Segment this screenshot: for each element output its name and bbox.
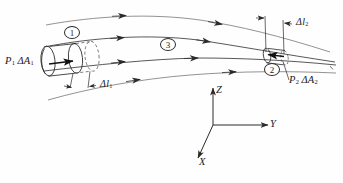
- dl2-sub: 2: [305, 20, 308, 27]
- inlet-force-a-sub: 1: [31, 59, 34, 66]
- streamline-arrow: [196, 40, 210, 42]
- outlet-force-a-sub: 2: [315, 78, 318, 85]
- inlet-force-p: P: [5, 55, 12, 66]
- streamline-arrow: [184, 58, 198, 59]
- axis-x-line: [198, 125, 213, 158]
- dl2-witness-left: [265, 16, 266, 52]
- callout-3: 3: [160, 38, 176, 51]
- streamline-lower-boundary: [44, 58, 336, 71]
- dl2-arrow-right: [285, 23, 293, 24]
- stream-tube-figure: P1 ΔA1 Δl1 P2 ΔA2 Δl2 1 3 2 Z Y X: [0, 0, 343, 183]
- inlet-right-cap: [67, 43, 84, 74]
- callout-2-label: 2: [270, 65, 275, 75]
- dl1-witness-right: [88, 71, 90, 88]
- dl1-witness-left: [70, 74, 73, 89]
- dl2-witness-right: [283, 20, 284, 54]
- callout-1: 1: [64, 26, 80, 39]
- outlet-force-label: P2 ΔA2: [289, 75, 318, 86]
- figure-canvas: [0, 0, 343, 183]
- axis-x-label: X: [199, 157, 205, 168]
- outlet-displacement-dimension: [256, 16, 292, 54]
- inlet-displaced-face: [83, 41, 100, 72]
- dl1-text: Δl: [100, 78, 109, 89]
- axis-z-label: Z: [216, 85, 222, 96]
- outlet-top-edge: [268, 48, 285, 50]
- outlet-force-p: P: [289, 74, 296, 85]
- inlet-force-label: P1 ΔA1: [5, 56, 34, 67]
- streamline-top: [46, 16, 330, 52]
- inlet-force-deltaA: ΔA: [17, 55, 30, 66]
- dl1-arrow-right: [90, 86, 97, 87]
- dl1-sub: 1: [109, 82, 112, 89]
- tube-tail-tick: [330, 66, 333, 70]
- callout-2: 2: [264, 63, 280, 76]
- inlet-displacement-label: Δl1: [100, 79, 112, 90]
- callout-1-label: 1: [70, 28, 75, 38]
- inlet-mouth-arc: [42, 49, 45, 74]
- inlet-displaced-bottom-edge: [75, 71, 92, 73]
- callout-3-label: 3: [166, 40, 171, 50]
- outlet-displaced-face: [280, 50, 290, 66]
- axis-y-label: Y: [270, 119, 276, 130]
- outlet-displacement-label: Δl2: [296, 17, 308, 28]
- coordinate-axes: [198, 88, 268, 158]
- outlet-force-deltaA: ΔA: [301, 74, 314, 85]
- dl2-text: Δl: [296, 16, 305, 27]
